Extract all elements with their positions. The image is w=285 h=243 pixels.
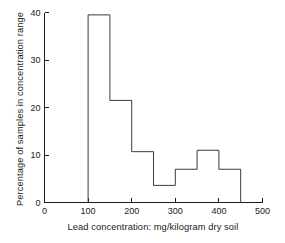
y-tick-label: 40	[30, 8, 40, 18]
x-tick-label: 200	[124, 206, 139, 216]
y-tick-label: 10	[30, 150, 40, 160]
x-tick-label: 100	[81, 206, 96, 216]
histogram-outline-group	[88, 15, 241, 203]
y-tick-label: 30	[30, 55, 40, 65]
histogram-figure: Percentage of samples in concentration r…	[0, 0, 285, 243]
y-tick-label: 20	[30, 103, 40, 113]
x-tick-label: 0	[42, 206, 47, 216]
x-tick-label: 400	[211, 206, 226, 216]
histogram-outline	[88, 15, 241, 203]
plot-area: 0102030400100200300400500	[0, 0, 285, 243]
x-tick-label: 300	[168, 206, 183, 216]
x-axis-title: Lead concentration: mg/kilogram dry soil	[44, 222, 262, 232]
x-tick-label: 500	[255, 206, 270, 216]
tick-labels-group: 0102030400100200300400500	[30, 8, 270, 216]
y-tick-label: 0	[35, 198, 40, 208]
